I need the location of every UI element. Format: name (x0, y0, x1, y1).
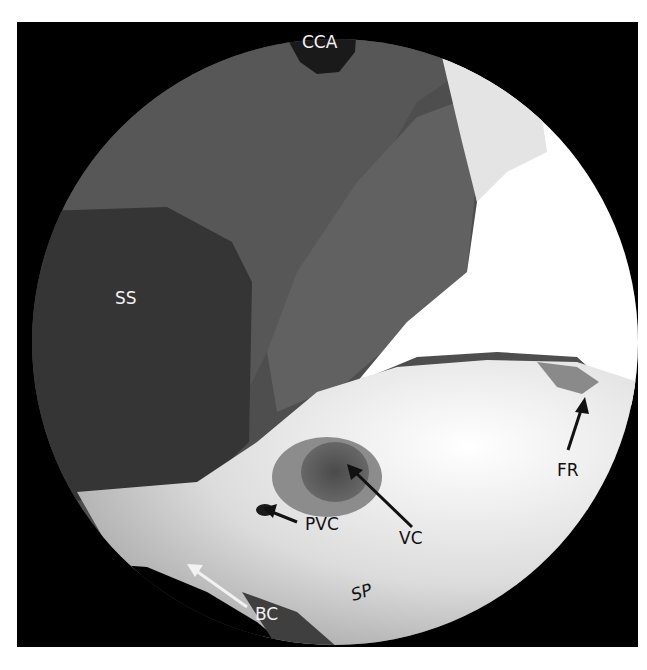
endoscopic-image-frame: CCA SS FR VC PVC SP BC (17, 22, 638, 647)
endoscopic-scene (17, 22, 638, 647)
label-vc: VC (399, 530, 423, 547)
field-of-view (17, 22, 638, 647)
label-ss: SS (115, 290, 137, 307)
label-pvc: PVC (305, 516, 339, 533)
label-fr: FR (557, 462, 579, 479)
sphenoid-sinus-region (17, 207, 252, 502)
label-bc: BC (255, 606, 278, 623)
label-cca: CCA (302, 34, 337, 51)
